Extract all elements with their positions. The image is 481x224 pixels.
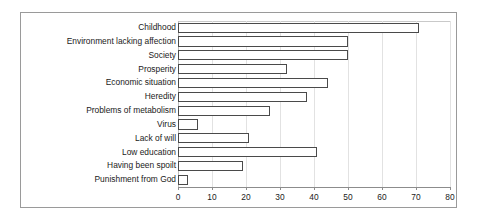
bar bbox=[178, 119, 198, 129]
category-label: Lack of will bbox=[24, 132, 176, 146]
bar-row bbox=[178, 21, 450, 35]
x-tick-label: 80 bbox=[445, 192, 454, 202]
bar-row bbox=[178, 35, 450, 49]
x-tick-label: 70 bbox=[411, 192, 420, 202]
bar bbox=[178, 92, 307, 102]
category-label: Having been spoilt bbox=[24, 159, 176, 173]
bar-row bbox=[178, 159, 450, 173]
bar bbox=[178, 133, 249, 143]
x-tick-mark bbox=[314, 187, 315, 190]
bar bbox=[178, 50, 348, 60]
chart-figure: ChildhoodEnvironment lacking affectionSo… bbox=[0, 0, 481, 224]
bar-row bbox=[178, 104, 450, 118]
bar-row bbox=[178, 76, 450, 90]
x-tick-label: 10 bbox=[207, 192, 216, 202]
bar bbox=[178, 78, 328, 88]
x-tick-mark bbox=[212, 187, 213, 190]
x-tick-mark bbox=[416, 187, 417, 190]
category-label: Environment lacking affection bbox=[24, 35, 176, 49]
x-tick-label: 20 bbox=[241, 192, 250, 202]
category-label: Society bbox=[24, 49, 176, 63]
bar bbox=[178, 106, 270, 116]
x-tick-label: 40 bbox=[309, 192, 318, 202]
gridline-80 bbox=[450, 21, 451, 187]
x-tick-label: 30 bbox=[275, 192, 284, 202]
x-tick-label: 0 bbox=[176, 192, 181, 202]
bar-row bbox=[178, 90, 450, 104]
category-label-column: ChildhoodEnvironment lacking affectionSo… bbox=[24, 21, 176, 187]
bar-row bbox=[178, 146, 450, 160]
bar bbox=[178, 36, 348, 46]
x-tick-mark bbox=[246, 187, 247, 190]
category-label: Heredity bbox=[24, 90, 176, 104]
bar-row bbox=[178, 132, 450, 146]
x-tick-label: 60 bbox=[377, 192, 386, 202]
category-label: Low education bbox=[24, 146, 176, 160]
x-tick-mark bbox=[280, 187, 281, 190]
category-label: Virus bbox=[24, 118, 176, 132]
bar bbox=[178, 147, 317, 157]
x-tick-mark bbox=[450, 187, 451, 190]
bar-row bbox=[178, 49, 450, 63]
bar-row bbox=[178, 173, 450, 187]
bar-series bbox=[178, 21, 450, 187]
bar-row bbox=[178, 63, 450, 77]
category-label: Economic situation bbox=[24, 76, 176, 90]
x-tick-mark bbox=[382, 187, 383, 190]
bar bbox=[178, 175, 188, 185]
category-label: Childhood bbox=[24, 21, 176, 35]
x-tick-mark bbox=[348, 187, 349, 190]
bar bbox=[178, 161, 243, 171]
category-label: Punishment from God bbox=[24, 173, 176, 187]
x-tick-mark bbox=[178, 187, 179, 190]
bar bbox=[178, 23, 419, 33]
category-label: Problems of metabolism bbox=[24, 104, 176, 118]
category-label: Prosperity bbox=[24, 63, 176, 77]
x-tick-label: 50 bbox=[343, 192, 352, 202]
bar-row bbox=[178, 118, 450, 132]
bar bbox=[178, 64, 287, 74]
